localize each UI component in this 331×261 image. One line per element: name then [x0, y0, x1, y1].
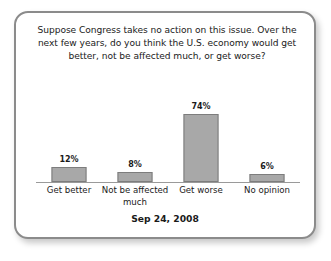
chart-screenshot: Suppose Congress takes no action on this…: [0, 0, 331, 261]
bar-value-label-1: 8%: [128, 160, 142, 169]
x-axis-baseline: [36, 182, 300, 183]
bar-chart-plot-area: 12% 8% 74% 6%: [36, 71, 300, 183]
bar-2: [184, 114, 219, 182]
bar-value-label-0: 12%: [59, 155, 78, 164]
category-label-1: Not be affected much: [97, 185, 173, 208]
bar-0: [52, 167, 87, 182]
bar-1: [118, 172, 153, 182]
bar-group-3: 6%: [234, 70, 300, 182]
bar-group-0: 12%: [36, 70, 102, 182]
category-label-3: No opinion: [229, 185, 305, 197]
category-label-0: Get better: [31, 185, 107, 197]
poll-question-text: Suppose Congress takes no action on this…: [28, 24, 306, 64]
poll-date-label: Sep 24, 2008: [16, 213, 314, 224]
bar-value-label-3: 6%: [260, 162, 274, 171]
bar-group-2: 74%: [168, 70, 234, 182]
poll-result-card: Suppose Congress takes no action on this…: [14, 11, 316, 239]
bar-3: [250, 174, 285, 182]
category-label-2: Get worse: [163, 185, 239, 197]
bar-value-label-2: 74%: [191, 102, 210, 111]
bar-group-1: 8%: [102, 70, 168, 182]
